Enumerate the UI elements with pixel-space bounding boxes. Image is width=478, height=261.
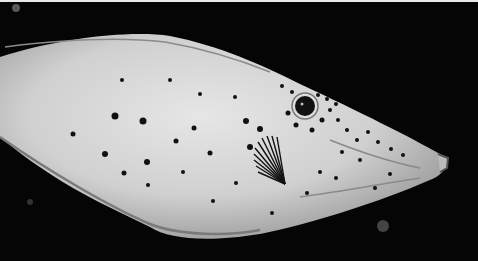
fish-photo (0, 2, 478, 261)
debris (27, 199, 33, 205)
debris (377, 220, 389, 232)
debris (12, 4, 20, 12)
eye (295, 96, 315, 116)
eye-highlight (301, 103, 304, 106)
photo-frame (0, 0, 478, 261)
